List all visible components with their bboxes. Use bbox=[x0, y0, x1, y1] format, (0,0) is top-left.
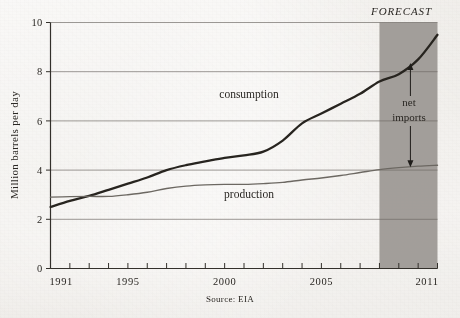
consumption-series-label: consumption bbox=[219, 88, 279, 101]
y-tick-label: 6 bbox=[37, 116, 42, 127]
forecast-label: FORECAST bbox=[370, 5, 432, 17]
chart-svg: 0246810 19911995200020052011 Million bar… bbox=[0, 0, 460, 318]
net-imports-label-line2: imports bbox=[392, 111, 426, 123]
y-tick-label: 2 bbox=[37, 214, 42, 225]
y-axis-tick-labels: 0246810 bbox=[32, 17, 51, 274]
x-tick-label: 2005 bbox=[310, 276, 333, 287]
source-note: Source: EIA bbox=[206, 294, 254, 304]
x-tick-label: 2011 bbox=[415, 276, 438, 287]
x-axis-tick-labels: 19911995200020052011 bbox=[50, 276, 439, 287]
forecast-shaded-region bbox=[379, 23, 437, 269]
x-tick-label: 1991 bbox=[50, 276, 73, 287]
y-tick-label: 8 bbox=[37, 66, 42, 77]
chart-figure: 0246810 19911995200020052011 Million bar… bbox=[0, 0, 460, 318]
net-imports-label-line1: net bbox=[402, 96, 415, 108]
y-tick-label: 0 bbox=[37, 263, 42, 274]
y-tick-label: 10 bbox=[32, 17, 43, 28]
x-tick-label: 1995 bbox=[116, 276, 139, 287]
x-axis-ticks bbox=[51, 263, 438, 269]
production-series-label: production bbox=[224, 188, 274, 201]
y-axis-title: Million barrels per day bbox=[8, 91, 20, 199]
x-tick-label: 2000 bbox=[213, 276, 236, 287]
y-tick-label: 4 bbox=[37, 165, 43, 176]
